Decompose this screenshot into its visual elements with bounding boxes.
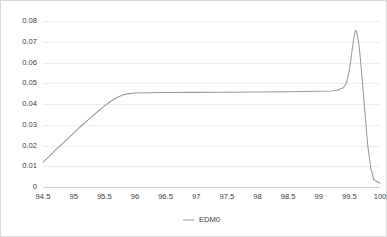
y-axis-labels: 0.080.070.060.050.040.030.020.010 (22, 16, 37, 191)
chart-canvas: 0.080.070.060.050.040.030.020.010 94.595… (1, 1, 387, 237)
y-axis-tick-label: 0 (33, 182, 37, 191)
y-axis-tick-label: 0.03 (22, 120, 37, 129)
y-axis-tick-label: 0.05 (22, 78, 37, 87)
x-axis-tick-label: 100 (374, 192, 387, 201)
y-axis-tick-label: 0.01 (22, 161, 37, 170)
y-axis-tick-label: 0.04 (22, 99, 37, 108)
legend-label[interactable]: EDM0 (199, 215, 220, 224)
x-axis-tick-label: 98.5 (281, 192, 296, 201)
series-line-edm0 (43, 30, 380, 183)
x-axis-tick-label: 96 (131, 192, 139, 201)
x-axis-tick-label: 98 (253, 192, 261, 201)
y-axis-tick-label: 0.06 (22, 58, 37, 67)
y-axis-tick-label: 0.07 (22, 37, 37, 46)
x-axis-tick-label: 96.5 (158, 192, 173, 201)
x-axis-labels: 94.59595.59696.59797.59898.59999.5100 (36, 192, 387, 201)
line-chart: 0.080.070.060.050.040.030.020.010 94.595… (1, 1, 387, 237)
series-group (43, 30, 380, 183)
x-axis-tick-label: 94.5 (36, 192, 51, 201)
x-axis-tick-label: 95.5 (97, 192, 112, 201)
x-axis-tick-label: 95 (69, 192, 77, 201)
y-axis-tick-label: 0.08 (22, 16, 37, 25)
x-axis-tick-label: 97.5 (219, 192, 234, 201)
chart-legend: EDM0 (183, 215, 220, 224)
y-axis-tick-label: 0.02 (22, 141, 37, 150)
chart-frame: 0.080.070.060.050.040.030.020.010 94.595… (0, 0, 387, 237)
gridlines (43, 22, 380, 188)
x-axis-tick-label: 97 (192, 192, 200, 201)
x-axis-tick-label: 99.5 (342, 192, 357, 201)
x-axis-tick-label: 99 (315, 192, 323, 201)
